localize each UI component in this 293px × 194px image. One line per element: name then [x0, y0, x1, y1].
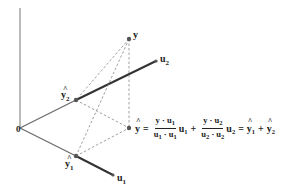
fraction-2: y · u2 u2 · u2: [200, 115, 225, 142]
formula-yhat: y: [135, 123, 140, 134]
formula-yhat1: y1: [247, 123, 255, 135]
u1-axis-line: [20, 128, 76, 156]
point-u2: [154, 59, 157, 62]
label-u2: u2: [160, 53, 170, 67]
formula-equals: =: [143, 123, 149, 134]
formula-u1: u1: [179, 123, 188, 135]
u2-vector: [76, 61, 156, 100]
formula-plus-2: +: [258, 123, 264, 134]
formula-u2: u2: [226, 123, 235, 135]
hat-yhat2: ^: [63, 85, 68, 94]
formula-equals-2: =: [238, 123, 244, 134]
label-origin: 0: [16, 124, 21, 134]
projection-diagram: 0 y u2 u1 y2 ^ y1 ^: [0, 0, 293, 194]
label-u1: u1: [117, 172, 127, 186]
point-u1: [111, 173, 114, 176]
point-yhat1: [74, 154, 78, 158]
formula-plus: +: [191, 123, 197, 134]
dashed-projection-lines: [76, 39, 129, 156]
u1-vector: [76, 156, 113, 175]
formula-yhat2: y2: [267, 123, 275, 135]
point-yhat: [127, 126, 131, 130]
point-y: [127, 37, 131, 41]
fraction-1: y · u1 u1 · u1: [153, 115, 178, 142]
projection-formula: y = y · u1 u1 · u1 u1 + y · u2 u2 · u2 u…: [135, 115, 275, 142]
hat-yhat1: ^: [67, 154, 72, 163]
label-y: y: [133, 29, 138, 40]
u2-axis-line: [20, 100, 76, 128]
point-yhat2: [74, 98, 78, 102]
